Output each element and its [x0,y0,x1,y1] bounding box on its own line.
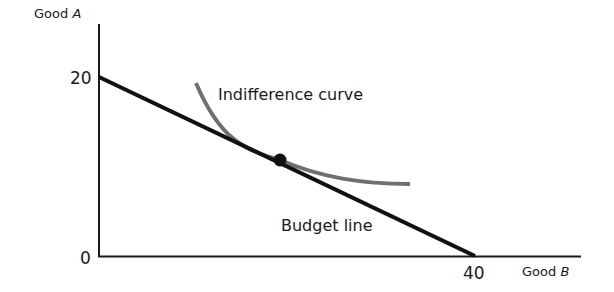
origin-label: 0 [80,248,91,268]
x-axis-label: Good B [522,264,569,279]
x-axis-label-var: B [560,264,569,279]
y-axis-label-var: A [72,6,81,21]
indifference-curve-label: Indifference curve [218,85,363,104]
x-axis-label-text: Good [522,264,560,279]
consumer-choice-chart: Good A 20 0 40 Good B Indifference curve… [0,0,614,292]
y-axis-label: Good A [34,6,81,21]
x-tick-40: 40 [463,263,485,283]
chart-canvas [0,0,614,292]
y-tick-20: 20 [70,68,92,88]
y-axis-label-text: Good [34,6,72,21]
budget-line-label: Budget line [281,216,373,235]
optimum-point [274,154,287,167]
